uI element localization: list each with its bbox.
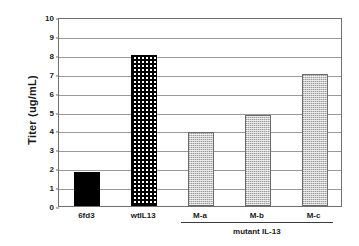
x-axis-label-m-c: M-c — [307, 211, 321, 220]
y-axis-tick-label: 1 — [50, 185, 54, 193]
plot-area: 109876543210 — [58, 18, 342, 207]
y-axis-tick-mark — [56, 189, 59, 190]
y-axis-tick-label: 7 — [50, 72, 54, 80]
bar-m-a — [188, 132, 214, 206]
bar-m-c — [302, 74, 328, 206]
y-axis-tick-label: 3 — [50, 147, 54, 155]
x-axis-label-6fd3: 6fd3 — [78, 211, 94, 220]
y-axis-tick-label: 6 — [50, 91, 54, 99]
gridline — [59, 57, 341, 58]
y-axis-tick-label: 8 — [50, 53, 54, 61]
mutant-group-bracket — [181, 222, 333, 223]
x-axis-label-m-a: M-a — [193, 211, 207, 220]
y-axis-tick-label: 9 — [50, 34, 54, 42]
gridline — [59, 38, 341, 39]
y-axis-tick-mark — [56, 170, 59, 171]
y-axis-tick-mark — [56, 37, 59, 38]
y-axis-tick-mark — [56, 208, 59, 209]
bar-chart-figure: Titer (ug/mL) 109876543210 mutant IL-13 … — [0, 0, 359, 246]
bar-wtil13 — [131, 55, 157, 206]
y-axis-tick-label: 2 — [50, 166, 54, 174]
bar-m-b — [245, 115, 271, 206]
gridline — [59, 114, 341, 115]
y-axis-tick-mark — [56, 94, 59, 95]
y-axis-tick-label: 5 — [50, 110, 54, 118]
y-axis-tick-mark — [56, 151, 59, 152]
y-axis-tick-mark — [56, 19, 59, 20]
mutant-group-label: mutant IL-13 — [181, 227, 333, 236]
gridline — [59, 95, 341, 96]
y-axis-tick-mark — [56, 56, 59, 57]
y-axis-tick-mark — [56, 75, 59, 76]
y-axis-tick-mark — [56, 132, 59, 133]
y-axis-tick-mark — [56, 113, 59, 114]
y-axis-tick-label: 0 — [50, 204, 54, 212]
x-axis-label-wtil13: wtIL13 — [131, 211, 156, 220]
gridline — [59, 76, 341, 77]
y-axis-tick-label: 4 — [50, 128, 54, 136]
bar-6fd3 — [74, 172, 100, 206]
x-axis-label-m-b: M-b — [250, 211, 264, 220]
y-axis-tick-label: 10 — [45, 15, 54, 23]
y-axis-title: Titer (ug/mL) — [26, 30, 38, 190]
